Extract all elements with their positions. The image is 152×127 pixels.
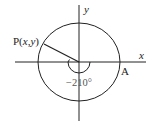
terminal-side-ray xyxy=(44,44,79,62)
angle-label: −210° xyxy=(66,77,92,88)
y-axis-label: y xyxy=(83,3,89,15)
unit-circle-diagram: y x P(x,y) A −210° xyxy=(0,0,152,127)
point-a-label: A xyxy=(121,65,129,77)
point-p-label: P(x,y) xyxy=(13,35,39,48)
x-axis-label: x xyxy=(138,49,144,61)
